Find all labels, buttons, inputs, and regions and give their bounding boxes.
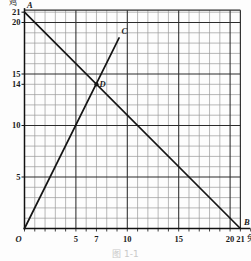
point-label-d: D <box>99 80 105 89</box>
y-tick-label-20: 20 <box>12 18 21 27</box>
figure-container: 鸡 兔 O 212015141055710152021 ABCD 图 1-1 <box>0 0 251 261</box>
x-tick-label-5: 5 <box>67 235 85 244</box>
coordinate-plot <box>0 0 251 261</box>
plot-background <box>0 0 251 261</box>
y-tick-label-14: 14 <box>12 80 21 89</box>
y-tick-label-5: 5 <box>16 173 20 182</box>
x-tick-label-21: 21 <box>231 235 249 244</box>
point-label-c: C <box>122 27 128 36</box>
x-tick-label-10: 10 <box>118 235 136 244</box>
y-tick-label-15: 15 <box>12 70 21 79</box>
x-tick-label-7: 7 <box>87 235 105 244</box>
data-markers <box>94 82 98 86</box>
x-tick-label-15: 15 <box>170 235 188 244</box>
point-label-a: A <box>27 1 33 10</box>
point-marker-d <box>94 82 98 86</box>
y-tick-label-10: 10 <box>12 121 21 130</box>
y-tick-label-21: 21 <box>12 8 21 17</box>
origin-label: O <box>16 235 22 244</box>
figure-caption: 图 1-1 <box>0 250 251 259</box>
point-label-b: B <box>244 218 250 227</box>
